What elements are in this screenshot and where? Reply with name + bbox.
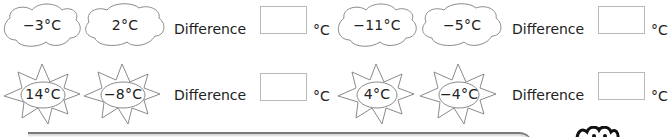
temperature-value: 2°C [83, 17, 167, 33]
difference-label: Difference [512, 87, 584, 103]
difference-answer-box[interactable] [260, 73, 307, 101]
sun-icon: 14°C [2, 62, 82, 124]
sun-icon: 4°C [336, 62, 416, 124]
temperature-value: −11°C [334, 17, 420, 33]
cloud-icon: −3°C [0, 2, 84, 48]
temperature-value: −8°C [83, 86, 163, 102]
temperature-value: 14°C [3, 86, 83, 102]
owl-mascot-icon [575, 125, 620, 137]
temperature-value: −3°C [0, 17, 84, 33]
sun-icon: −8°C [82, 62, 162, 124]
difference-answer-box[interactable] [598, 72, 645, 100]
temperature-value: 4°C [337, 86, 417, 102]
cloud-row: −3°C 2°C Difference °C −11°C −5°C Differ… [0, 0, 672, 60]
unit-label: °C [651, 88, 668, 104]
difference-label: Difference [174, 21, 246, 37]
temperature-value: −5°C [420, 17, 504, 33]
difference-label: Difference [174, 87, 246, 103]
cloud-icon: 2°C [83, 2, 167, 48]
sun-icon: −4°C [418, 62, 498, 124]
difference-label: Difference [512, 21, 584, 37]
cloud-icon: −11°C [334, 2, 420, 48]
unit-label: °C [313, 88, 330, 104]
temperature-value: −4°C [419, 86, 499, 102]
difference-answer-box[interactable] [598, 6, 645, 34]
unit-label: °C [651, 22, 668, 38]
sun-row: 14°C −8°C Difference °C 4°C −4°C Differe… [0, 60, 672, 126]
cloud-icon: −5°C [420, 2, 504, 48]
unit-label: °C [313, 22, 330, 38]
difference-answer-box[interactable] [260, 6, 307, 34]
bottom-divider-bar [28, 132, 533, 137]
